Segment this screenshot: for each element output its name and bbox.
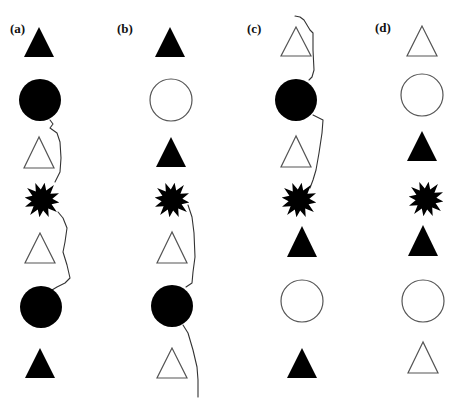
open-triangle-icon	[281, 136, 311, 167]
filled-star-icon	[155, 183, 190, 218]
filled-triangle-icon	[287, 348, 317, 378]
trajectory-line	[310, 115, 323, 188]
trajectory-line	[186, 205, 195, 287]
panel-label-a: (a)	[10, 21, 25, 36]
filled-triangle-icon	[287, 226, 317, 257]
open-triangle-icon	[157, 232, 187, 263]
trajectory-line	[52, 212, 70, 290]
open-circle-icon	[150, 79, 192, 121]
panel-b	[150, 27, 198, 397]
panel-label-c: (c)	[247, 21, 261, 36]
filled-triangle-icon	[407, 131, 437, 161]
open-triangle-icon	[407, 26, 437, 56]
filled-circle-icon	[20, 286, 62, 328]
filled-circle-icon	[19, 79, 61, 121]
panel-a	[19, 27, 70, 378]
filled-triangle-icon	[24, 27, 54, 57]
panel-label-b: (b)	[117, 21, 133, 36]
trajectory-line	[50, 120, 61, 182]
filled-star-icon	[409, 182, 444, 217]
panel-c	[275, 16, 323, 378]
trajectory-line	[183, 325, 198, 397]
filled-triangle-icon	[155, 27, 185, 57]
filled-circle-icon	[275, 79, 317, 121]
filled-triangle-icon	[156, 137, 186, 167]
filled-star-icon	[282, 183, 317, 218]
open-triangle-icon	[157, 348, 187, 378]
open-triangle-icon	[25, 233, 55, 263]
filled-triangle-icon	[25, 348, 55, 378]
open-circle-icon	[401, 74, 443, 116]
filled-circle-icon	[151, 285, 193, 327]
open-triangle-icon	[24, 137, 54, 168]
open-circle-icon	[281, 280, 323, 322]
shape-sequence-figure: (a) (b) (c) (d)	[0, 0, 460, 408]
open-triangle-icon	[281, 27, 311, 56]
open-triangle-icon	[408, 342, 438, 373]
panel-d	[401, 26, 444, 373]
panel-label-d: (d)	[375, 20, 391, 35]
open-circle-icon	[402, 280, 444, 322]
filled-star-icon	[25, 183, 60, 218]
filled-triangle-icon	[408, 225, 438, 256]
